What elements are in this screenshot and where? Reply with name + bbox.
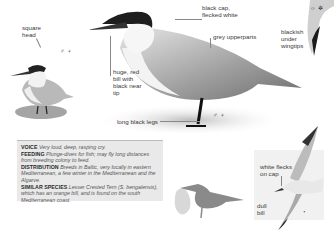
- label-white-flecks: white flecks on cap: [260, 163, 292, 177]
- feeding-section: FEEDING Plunge-dives for fish; may fly l…: [21, 151, 159, 164]
- distribution-section: DISTRIBUTION Breeds in Baltic, very loca…: [21, 164, 159, 184]
- label-long-black-legs: long black legs: [117, 118, 158, 125]
- size-silhouette-icon: [170, 178, 250, 223]
- label-blackish-wingtips: blackish under wingtips: [281, 28, 303, 49]
- leader-line: [210, 38, 211, 48]
- sex-symbols-icon: ♂ ♀: [213, 112, 225, 118]
- season-symbols-icon: ☼ ✲: [310, 4, 324, 11]
- label-grey-upperparts: grey upperparts: [213, 33, 256, 40]
- flying-tern-illustration: [262, 126, 332, 236]
- similar-species-section: SIMILAR SPECIES Lesser Crested Tern (S. …: [21, 184, 159, 204]
- label-square-head: square head: [22, 24, 41, 38]
- label-black-cap: black cap, flecked white: [202, 4, 238, 18]
- sex-symbols-icon: ♂ ♀: [60, 48, 72, 54]
- season-symbol-icon: ◔: [302, 209, 306, 215]
- leader-line: [281, 176, 282, 186]
- leader-line: [175, 19, 202, 20]
- small-tern-illustration: [8, 50, 78, 120]
- label-dull-bill: dull bill: [257, 202, 267, 216]
- species-info-panel: VOICE Very loud, deep, rasping cry. FEED…: [17, 141, 163, 201]
- voice-section: VOICE Very loud, deep, rasping cry.: [21, 144, 159, 151]
- leader-line: [110, 36, 111, 76]
- leader-line: [160, 121, 200, 122]
- label-huge-bill: huge, red bill with black near tip: [113, 68, 142, 96]
- leader-line: [36, 38, 41, 47]
